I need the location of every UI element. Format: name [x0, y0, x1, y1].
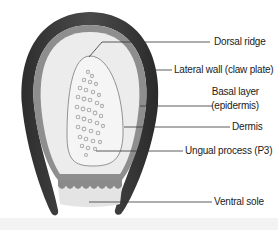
label-basal-layer-epidermis: (epidermis)	[211, 100, 259, 111]
label-dermis: Dermis	[232, 121, 262, 132]
label-dorsal-ridge: Dorsal ridge	[214, 36, 266, 47]
label-lateral-wall: Lateral wall (claw plate)	[174, 64, 274, 75]
label-ungual-process: Ungual process (P3)	[185, 145, 272, 156]
label-basal-layer: Basal layer	[212, 86, 259, 97]
label-ventral-sole: Ventral sole	[214, 196, 264, 207]
bottom-band	[0, 218, 278, 230]
ventral-sole-shape	[58, 186, 122, 207]
claw-diagram: Dorsal ridge Lateral wall (claw plate) B…	[0, 0, 278, 230]
